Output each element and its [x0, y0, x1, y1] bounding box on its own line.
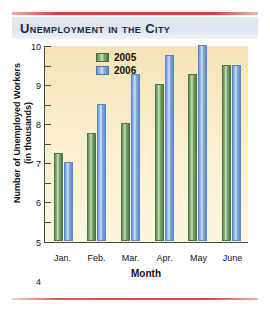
- y-axis-tick: 8: [45, 85, 51, 86]
- bar-group: [188, 46, 207, 241]
- bar-2005-Feb: [87, 133, 96, 241]
- x-axis-tick-label: Mar.: [116, 253, 146, 263]
- y-axis-tick: 0: [45, 242, 51, 243]
- chart-page: Unemployment in the City Number of Unemp…: [0, 0, 270, 315]
- legend: 2005 2006: [96, 52, 136, 76]
- legend-label-2006: 2006: [114, 65, 136, 76]
- chart-container: Number of Unemployed Workers (in thousan…: [0, 44, 270, 296]
- bar-2005-May: [188, 74, 197, 240]
- y-axis-title: Number of Unemployed Workers (in thousan…: [12, 48, 34, 218]
- top-divider-rule: [12, 12, 258, 15]
- x-axis-tick-label: Feb.: [82, 253, 112, 263]
- y-axis-tick-label: 5: [36, 238, 41, 248]
- bar-2005-Jan: [54, 153, 63, 241]
- bar-2006-Jan: [64, 162, 73, 240]
- y-axis-tick-label: 9: [36, 81, 41, 91]
- x-axis-tick-label: May: [184, 253, 214, 263]
- y-axis-tick-label: 10: [31, 42, 41, 52]
- y-axis-tick-label: 7: [36, 159, 41, 169]
- bar-2005-Apr: [155, 84, 164, 240]
- page-title: Unemployment in the City: [12, 21, 170, 36]
- bar-2006-Mar: [131, 74, 140, 240]
- y-axis-tick-label: 4: [36, 277, 41, 287]
- bar-2006-Apr: [165, 55, 174, 241]
- bar-group: [222, 46, 241, 241]
- y-axis-tick-label: 6: [36, 198, 41, 208]
- bar-group: [155, 46, 174, 241]
- y-axis-tick: 1: [45, 222, 51, 223]
- legend-item-2006: 2006: [96, 65, 136, 76]
- x-axis-tick-label: Jan.: [48, 253, 78, 263]
- bar-groups: [47, 46, 249, 241]
- y-axis-tick: 9: [45, 66, 51, 67]
- y-axis-tick: 3: [45, 183, 51, 184]
- y-axis-tick: 5: [45, 144, 51, 145]
- bar-2005-Mar: [121, 123, 130, 240]
- y-axis-tick: 4: [45, 163, 51, 164]
- legend-swatch-2006: [96, 66, 109, 75]
- legend-label-2005: 2005: [114, 52, 136, 63]
- y-axis-title-line1: Number of Unemployed Workers: [12, 48, 23, 218]
- y-axis-tick: 6: [45, 124, 51, 125]
- legend-item-2005: 2005: [96, 52, 136, 63]
- x-axis-tick-label: Apr.: [150, 253, 180, 263]
- y-axis-tick-label: 8: [36, 120, 41, 130]
- plot-outer: 012345678910 2005 2006: [44, 46, 248, 251]
- legend-swatch-2005: [96, 53, 109, 62]
- title-banner: Unemployment in the City: [12, 17, 258, 39]
- bar-2005-June: [222, 65, 231, 241]
- y-axis-title-line2: (in thousands): [23, 48, 34, 218]
- x-axis-title: Month: [44, 268, 248, 279]
- y-axis-tick: 7: [45, 105, 51, 106]
- bar-2006-May: [198, 45, 207, 241]
- bar-2006-June: [232, 65, 241, 241]
- x-axis-tick-label: June: [218, 253, 248, 263]
- bar-group: [54, 46, 73, 241]
- bar-2006-Feb: [97, 104, 106, 241]
- plot-area: 012345678910: [44, 46, 248, 243]
- bottom-divider-rule: [12, 298, 258, 300]
- y-axis-tick: 2: [45, 202, 51, 203]
- y-axis-tick: 10: [45, 46, 51, 47]
- x-axis-tick-labels: Jan.Feb.Mar.Apr.MayJune: [46, 253, 250, 263]
